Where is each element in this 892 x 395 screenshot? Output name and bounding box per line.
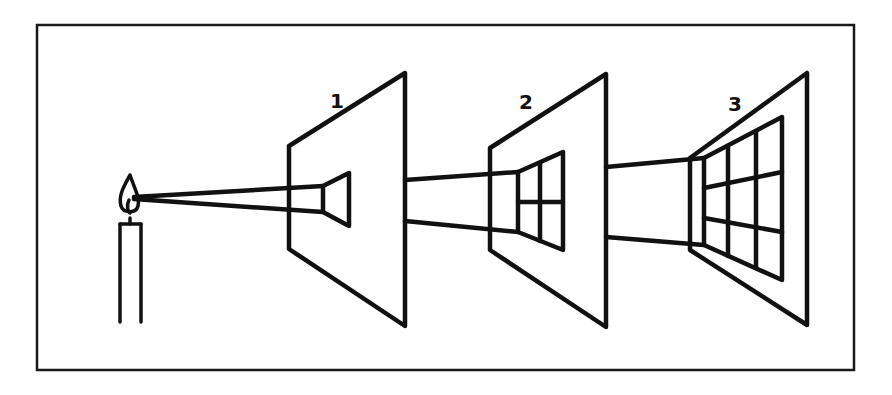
- panel-3: [690, 73, 807, 325]
- light-beam-2: [405, 172, 518, 232]
- panel-3-label: 3: [728, 92, 742, 116]
- panel-2-label: 2: [519, 90, 533, 114]
- panel-1: [289, 73, 405, 326]
- light-beam-1: [134, 186, 323, 212]
- panel-2: [490, 74, 606, 327]
- inverse-square-diagram: 1 2 3: [0, 0, 892, 395]
- panel-1-label: 1: [330, 89, 344, 113]
